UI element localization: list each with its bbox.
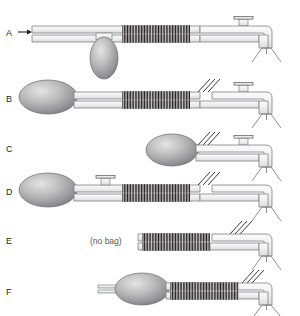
corrugated-tube-upper-B <box>122 91 190 100</box>
expiratory-return-F <box>238 292 259 299</box>
elbow-joint-D <box>259 194 268 207</box>
corrugated-tube-upper-E <box>142 233 210 242</box>
reservoir-bag-A <box>90 37 118 79</box>
corrugated-tube-lower-A <box>122 34 190 43</box>
corrugated-tube-upper-A <box>122 25 190 34</box>
row-label-D: D <box>6 187 13 197</box>
reservoir-bag-C <box>146 134 198 166</box>
row-label-A: A <box>6 28 12 38</box>
row-label-C: C <box>6 144 13 154</box>
expiratory-return-B <box>200 101 259 108</box>
elbow-joint-B <box>259 101 268 114</box>
expiratory-return-E <box>210 243 259 250</box>
corrugated-tube-upper-D <box>122 184 190 193</box>
row-label-E: E <box>6 236 12 246</box>
corrugated-tube-lower-B <box>122 100 190 109</box>
row-label-F: F <box>6 287 12 297</box>
corrugated-tube-lower-E <box>142 242 210 251</box>
corrugated-tube-upper-F <box>170 282 238 291</box>
corrugated-tube-lower-D <box>122 193 190 202</box>
row-label-B: B <box>6 94 12 104</box>
no-bag-note: (no bag) <box>90 236 122 246</box>
reservoir-bag-D <box>19 173 77 207</box>
breathing-circuit-diagram: A B <box>0 0 300 316</box>
elbow-joint-F <box>259 292 268 305</box>
elbow-joint-E <box>259 243 268 256</box>
elbow-joint-C <box>259 154 268 167</box>
corrugated-tube-lower-F <box>170 291 238 300</box>
elbow-joint-A <box>259 35 268 48</box>
expiratory-return-C <box>196 154 259 161</box>
reservoir-bag-B <box>19 80 77 114</box>
expiratory-return-A <box>200 35 259 42</box>
expiratory-return-D <box>200 194 259 201</box>
reservoir-bag-F <box>115 273 169 305</box>
